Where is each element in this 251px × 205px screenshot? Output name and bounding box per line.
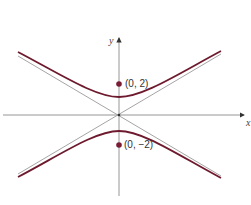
- point-0-2: [116, 81, 122, 87]
- point-0-neg2: [116, 142, 122, 148]
- hyperbola-lower-branch: [18, 131, 221, 178]
- hyperbola-diagram: y x (0, 2) (0, −2): [0, 0, 251, 205]
- x-axis-label: x: [246, 118, 250, 128]
- diagram-canvas: [0, 0, 251, 205]
- point-label-0-2: (0, 2): [125, 79, 148, 89]
- y-axis-label: y: [109, 36, 113, 46]
- point-label-0-neg2: (0, −2): [124, 140, 153, 150]
- origin-marker: [118, 114, 121, 117]
